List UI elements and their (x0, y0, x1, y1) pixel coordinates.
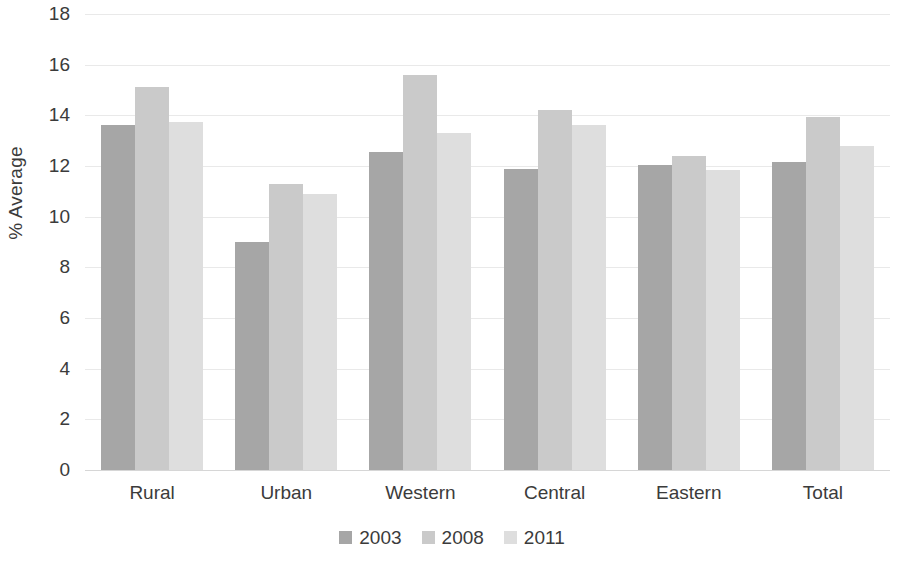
bar[interactable] (135, 87, 169, 470)
bar[interactable] (269, 184, 303, 470)
bar[interactable] (303, 194, 337, 470)
y-axis-tick-label: 2 (10, 408, 70, 430)
bar-group (235, 14, 337, 470)
legend-item[interactable]: 2003 (339, 528, 401, 547)
y-axis-tick-label: 16 (10, 54, 70, 76)
legend-label: 2011 (524, 528, 565, 547)
legend: 200320082011 (0, 528, 904, 547)
bar[interactable] (538, 110, 572, 470)
bar-groups (85, 14, 890, 470)
legend-label: 2003 (359, 528, 401, 547)
bar[interactable] (572, 125, 606, 470)
legend-item[interactable]: 2008 (422, 528, 484, 547)
bar[interactable] (504, 169, 538, 470)
bar-group (504, 14, 606, 470)
x-axis-tick-label: Rural (129, 482, 174, 504)
bar[interactable] (840, 146, 874, 470)
bar[interactable] (806, 117, 840, 470)
bar-group (101, 14, 203, 470)
y-axis-tick-label: 12 (10, 155, 70, 177)
bar-group (772, 14, 874, 470)
x-axis-tick-label: Western (385, 482, 455, 504)
legend-swatch-icon (422, 531, 435, 544)
x-axis-tick-label: Central (524, 482, 585, 504)
bar[interactable] (235, 242, 269, 470)
bar-chart: % Average 181614121086420 RuralUrbanWest… (0, 0, 904, 562)
legend-label: 2008 (442, 528, 484, 547)
bar[interactable] (772, 162, 806, 470)
y-axis-tick-label: 8 (10, 256, 70, 278)
legend-swatch-icon (504, 531, 517, 544)
bar[interactable] (706, 170, 740, 470)
bar[interactable] (638, 165, 672, 470)
bar-group (638, 14, 740, 470)
bar[interactable] (169, 122, 203, 470)
legend-swatch-icon (339, 531, 352, 544)
bar[interactable] (101, 125, 135, 470)
y-axis-tick-label: 4 (10, 358, 70, 380)
y-axis-tick-label: 10 (10, 206, 70, 228)
x-axis-tick-labels: RuralUrbanWesternCentralEasternTotal (85, 482, 890, 512)
x-axis-tick-label: Eastern (656, 482, 721, 504)
bar[interactable] (437, 133, 471, 470)
gridline (85, 470, 890, 471)
y-axis-tick-label: 6 (10, 307, 70, 329)
bar[interactable] (403, 75, 437, 470)
legend-item[interactable]: 2011 (504, 528, 565, 547)
y-axis-tick-label: 14 (10, 104, 70, 126)
y-axis-tick-label: 0 (10, 459, 70, 481)
x-axis-tick-label: Urban (260, 482, 312, 504)
bar[interactable] (369, 152, 403, 470)
x-axis-tick-label: Total (803, 482, 843, 504)
bar-group (369, 14, 471, 470)
bar[interactable] (672, 156, 706, 470)
y-axis-tick-label: 18 (10, 3, 70, 25)
y-axis-tick-labels: 181614121086420 (0, 14, 70, 470)
